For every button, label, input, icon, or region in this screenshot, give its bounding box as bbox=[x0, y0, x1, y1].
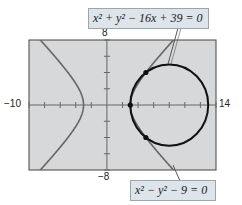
circle-equation-label: x² + y² − 16x + 39 = 0 bbox=[88, 8, 209, 29]
hyperbola-equation-label: x² − y² − 9 = 0 bbox=[130, 180, 216, 201]
x-max-label: 14 bbox=[219, 98, 230, 109]
graph-plot bbox=[0, 0, 242, 205]
y-min-label: −8 bbox=[98, 171, 109, 182]
x-min-label: −10 bbox=[4, 98, 21, 109]
